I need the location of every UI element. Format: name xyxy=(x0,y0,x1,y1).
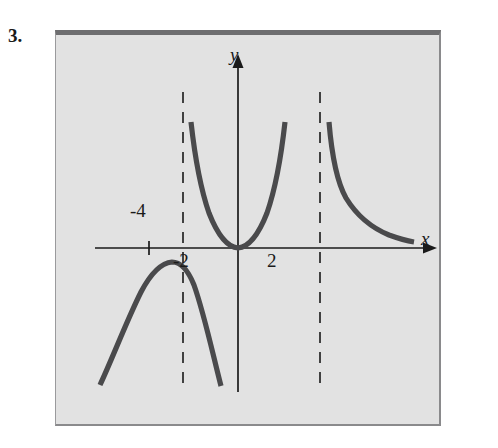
x-axis-label: x xyxy=(421,228,429,250)
problem-number: 3. xyxy=(8,25,22,47)
curve-left-branch xyxy=(100,262,221,386)
y-axis xyxy=(233,54,244,392)
y-axis-label: y xyxy=(230,44,238,66)
x-tick-label-neg4: -4 xyxy=(130,200,146,222)
function-curves xyxy=(100,122,414,386)
x-tick-label-pos2: 2 xyxy=(267,250,277,272)
x-axis xyxy=(95,241,437,255)
curve-right-branch xyxy=(329,122,414,242)
x-tick-label-neg2: -2 xyxy=(173,250,189,272)
graph-plot xyxy=(55,30,441,426)
figure-root: 3. y x -4 -2 2 xyxy=(0,0,498,448)
